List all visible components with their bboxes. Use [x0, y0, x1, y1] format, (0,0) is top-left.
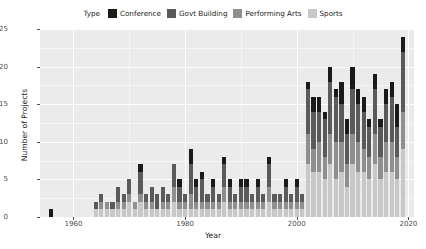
bar-1971[interactable]: [133, 202, 137, 217]
bar-1964[interactable]: [94, 202, 98, 217]
bar-1983[interactable]: [200, 172, 204, 217]
bar-segment-performing-arts: [395, 157, 399, 180]
bar-1976[interactable]: [161, 187, 165, 217]
bar-2002[interactable]: [306, 82, 310, 217]
y-tick-label-5: 5: [4, 175, 8, 183]
bar-segment-govt-building: [356, 104, 360, 142]
bar-segment-govt-building: [367, 127, 371, 157]
bar-segment-performing-arts: [217, 202, 221, 210]
bar-1966[interactable]: [105, 202, 109, 217]
bar-1988[interactable]: [228, 179, 232, 217]
legend-item-sports[interactable]: Sports: [308, 9, 343, 18]
legend-title: Type: [83, 9, 100, 18]
bar-segment-performing-arts: [244, 202, 248, 210]
bar-segment-performing-arts: [350, 134, 354, 164]
bar-1968[interactable]: [116, 187, 120, 217]
legend-item-conference[interactable]: Conference: [108, 9, 161, 18]
bar-segment-govt-building: [94, 202, 98, 210]
bar-2018[interactable]: [395, 104, 399, 217]
bar-1998[interactable]: [284, 179, 288, 217]
bar-2013[interactable]: [367, 119, 371, 217]
bar-segment-performing-arts: [127, 194, 131, 202]
bar-1986[interactable]: [217, 194, 221, 217]
legend-item-govt-building[interactable]: Govt Building: [167, 9, 227, 18]
bar-1999[interactable]: [289, 194, 293, 217]
bar-1978[interactable]: [172, 164, 176, 217]
bar-2001[interactable]: [300, 194, 304, 217]
bar-segment-performing-arts: [378, 157, 382, 180]
bar-1979[interactable]: [177, 179, 181, 217]
bar-1987[interactable]: [222, 157, 226, 217]
bar-1973[interactable]: [144, 194, 148, 217]
bar-1981[interactable]: [189, 149, 193, 217]
bar-2003[interactable]: [311, 97, 315, 217]
bar-2008[interactable]: [339, 82, 343, 217]
bar-segment-sports: [200, 209, 204, 217]
bar-segment-sports: [367, 179, 371, 217]
bar-segment-sports: [244, 209, 248, 217]
bar-2010[interactable]: [350, 67, 354, 217]
bar-1990[interactable]: [239, 179, 243, 217]
bar-segment-sports: [155, 209, 159, 217]
bar-segment-govt-building: [317, 112, 321, 142]
bar-segment-conference: [395, 104, 399, 127]
bar-segment-performing-arts: [144, 202, 148, 210]
bar-2015[interactable]: [378, 119, 382, 217]
bar-1991[interactable]: [244, 179, 248, 217]
bar-1975[interactable]: [155, 194, 159, 217]
bar-1970[interactable]: [127, 179, 131, 217]
bar-2009[interactable]: [345, 119, 349, 217]
bar-segment-govt-building: [272, 194, 276, 202]
bar-2019[interactable]: [401, 37, 405, 217]
bar-2005[interactable]: [323, 112, 327, 217]
bar-segment-govt-building: [194, 187, 198, 202]
bar-segment-performing-arts: [200, 202, 204, 210]
y-tick-label-25: 25: [0, 25, 8, 33]
bar-1977[interactable]: [166, 194, 170, 217]
x-tick-label-2000: 2000: [288, 220, 306, 228]
bar-1956[interactable]: [49, 209, 53, 217]
bar-1980[interactable]: [183, 194, 187, 217]
bar-1989[interactable]: [233, 194, 237, 217]
bar-segment-sports: [384, 172, 388, 217]
bar-2017[interactable]: [390, 82, 394, 217]
bar-1996[interactable]: [272, 194, 276, 217]
bar-1965[interactable]: [99, 194, 103, 217]
bar-2000[interactable]: [295, 179, 299, 217]
bar-2004[interactable]: [317, 97, 321, 217]
legend-label-sports: Sports: [320, 9, 343, 18]
bar-segment-performing-arts: [122, 202, 126, 210]
bar-2012[interactable]: [362, 97, 366, 217]
bar-1985[interactable]: [211, 179, 215, 217]
bar-1994[interactable]: [261, 194, 265, 217]
bar-2007[interactable]: [334, 89, 338, 217]
bar-segment-performing-arts: [300, 202, 304, 210]
bar-1993[interactable]: [256, 179, 260, 217]
bar-segment-govt-building: [144, 194, 148, 202]
bar-segment-sports: [94, 209, 98, 217]
y-tick-label-10: 10: [0, 138, 8, 146]
bar-1984[interactable]: [205, 194, 209, 217]
bar-2006[interactable]: [328, 67, 332, 217]
bar-1972[interactable]: [138, 164, 142, 217]
bar-segment-performing-arts: [189, 194, 193, 209]
bar-1982[interactable]: [194, 179, 198, 217]
bar-1997[interactable]: [278, 194, 282, 217]
bar-1974[interactable]: [150, 187, 154, 217]
legend-item-performing-arts[interactable]: Performing Arts: [233, 9, 301, 18]
bar-segment-performing-arts: [150, 202, 154, 210]
bar-segment-sports: [356, 172, 360, 217]
bar-2011[interactable]: [356, 89, 360, 217]
bar-segment-sports: [378, 179, 382, 217]
bar-2014[interactable]: [373, 74, 377, 217]
bar-segment-performing-arts: [295, 202, 299, 210]
bar-2016[interactable]: [384, 89, 388, 217]
bar-segment-govt-building: [401, 52, 405, 112]
bar-1992[interactable]: [250, 194, 254, 217]
bar-1967[interactable]: [110, 202, 114, 217]
bar-segment-sports: [345, 187, 349, 217]
bar-segment-sports: [177, 209, 181, 217]
bar-segment-govt-building: [278, 194, 282, 202]
bar-1969[interactable]: [122, 194, 126, 217]
bar-1995[interactable]: [267, 157, 271, 217]
